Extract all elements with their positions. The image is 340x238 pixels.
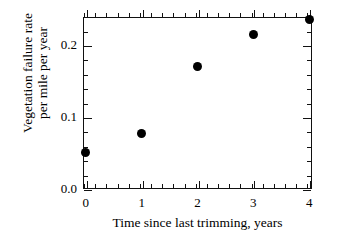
top-axis-minor-tick (151, 13, 152, 18)
top-axis-minor-tick (240, 13, 241, 18)
x-axis-major-tick (254, 181, 255, 188)
y-axis-minor-tick (84, 75, 88, 76)
right-axis-minor-tick (307, 60, 311, 61)
y-axis-minor-tick (84, 60, 88, 61)
top-axis-major-tick (254, 10, 255, 18)
x-axis-major-tick (87, 181, 88, 188)
right-axis-major-tick (303, 118, 311, 119)
top-axis-minor-tick (129, 13, 130, 18)
top-axis-minor-tick (207, 13, 208, 18)
top-axis-minor-tick (196, 13, 197, 18)
y-axis-major-tick (84, 190, 92, 191)
x-axis-tick-label: 1 (127, 196, 157, 209)
right-axis-minor-tick (307, 176, 311, 177)
x-axis-minor-tick (118, 184, 119, 188)
top-axis-minor-tick (84, 13, 85, 18)
right-axis-minor-tick (307, 147, 311, 148)
y-axis-tick-label: 0.0 (37, 182, 77, 195)
x-axis-minor-tick (307, 184, 308, 188)
top-axis-minor-tick (218, 13, 219, 18)
top-axis-minor-tick (229, 13, 230, 18)
x-axis-tick-label: 0 (71, 196, 101, 209)
x-axis-minor-tick (252, 184, 253, 188)
top-axis-minor-tick (285, 13, 286, 18)
top-axis-major-tick (143, 10, 144, 18)
x-axis-title: Time since last trimming, years (83, 215, 312, 231)
x-axis-tick-label: 2 (183, 196, 213, 209)
right-axis-major-tick (303, 190, 311, 191)
right-axis-minor-tick (307, 32, 311, 33)
y-axis-title-line-2: per mile per year (35, 0, 50, 153)
right-axis-major-tick (303, 46, 311, 47)
top-axis-minor-tick (252, 13, 253, 18)
x-axis-minor-tick (218, 184, 219, 188)
x-axis-tick-label: 4 (294, 196, 324, 209)
x-axis-major-tick (199, 181, 200, 188)
top-axis-minor-tick (95, 13, 96, 18)
x-axis-minor-tick (229, 184, 230, 188)
x-axis-minor-tick (296, 184, 297, 188)
x-axis-minor-tick (196, 184, 197, 188)
top-axis-minor-tick (263, 13, 264, 18)
y-axis-title-line-1: Vegetation failure rate (20, 0, 35, 153)
x-axis-major-tick (310, 181, 311, 188)
right-axis-minor-tick (307, 104, 311, 105)
x-axis-minor-tick (285, 184, 286, 188)
y-axis-title: Vegetation failure rate per mile per yea… (20, 0, 50, 153)
x-axis-minor-tick (240, 184, 241, 188)
top-axis-minor-tick (274, 13, 275, 18)
x-axis-minor-tick (106, 184, 107, 188)
right-axis-minor-tick (307, 132, 311, 133)
top-axis-minor-tick (162, 13, 163, 18)
x-axis-tick-label: 3 (238, 196, 268, 209)
y-axis-minor-tick (84, 32, 88, 33)
top-axis-minor-tick (296, 13, 297, 18)
top-axis-minor-tick (106, 13, 107, 18)
top-axis-major-tick (199, 10, 200, 18)
x-axis-minor-tick (185, 184, 186, 188)
right-axis-minor-tick (307, 75, 311, 76)
scatter-chart-figure: 012340.00.10.2 Time since last trimming,… (0, 0, 340, 238)
y-axis-minor-tick (84, 132, 88, 133)
top-axis-minor-tick (118, 13, 119, 18)
y-axis-major-tick (84, 118, 92, 119)
right-axis-minor-tick (307, 161, 311, 162)
x-axis-minor-tick (129, 184, 130, 188)
y-axis-major-tick (84, 46, 92, 47)
x-axis-minor-tick (95, 184, 96, 188)
top-axis-major-tick (87, 10, 88, 18)
x-axis-minor-tick (84, 184, 85, 188)
x-axis-major-tick (143, 181, 144, 188)
data-point (305, 15, 314, 24)
x-axis-minor-tick (151, 184, 152, 188)
x-axis-minor-tick (162, 184, 163, 188)
y-axis-minor-tick (84, 176, 88, 177)
x-axis-minor-tick (263, 184, 264, 188)
top-axis-minor-tick (140, 13, 141, 18)
y-axis-minor-tick (84, 104, 88, 105)
x-axis-minor-tick (173, 184, 174, 188)
plot-area (83, 17, 312, 189)
x-axis-minor-tick (207, 184, 208, 188)
y-axis-minor-tick (84, 161, 88, 162)
x-axis-minor-tick (140, 184, 141, 188)
x-axis-minor-tick (274, 184, 275, 188)
right-axis-minor-tick (307, 89, 311, 90)
y-axis-minor-tick (84, 89, 88, 90)
top-axis-minor-tick (185, 13, 186, 18)
top-axis-minor-tick (173, 13, 174, 18)
